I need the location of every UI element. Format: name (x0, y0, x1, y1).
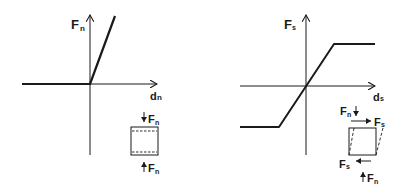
shear-x-axis-label: d s (373, 91, 384, 103)
normal-element-sketch: F n F n (131, 112, 159, 175)
svg-text:s: s (292, 24, 296, 31)
svg-text:F: F (148, 113, 155, 125)
shear-force-panel: F s d s F n F s F s F (240, 15, 385, 185)
svg-text:s: s (380, 95, 384, 102)
svg-text:F: F (339, 158, 346, 170)
normal-x-axis-label: d n (150, 90, 162, 102)
normal-force-curve (22, 16, 115, 84)
diagram-canvas: F n d n F n F n (0, 0, 402, 193)
svg-text:s: s (346, 163, 350, 170)
svg-text:F: F (367, 172, 374, 184)
svg-text:F: F (71, 17, 79, 32)
shear-y-axis-label: F s (284, 17, 296, 32)
svg-text:s: s (381, 121, 385, 128)
svg-text:d: d (373, 91, 380, 103)
svg-text:F: F (284, 17, 292, 32)
svg-text:n: n (155, 168, 159, 175)
svg-text:F: F (340, 105, 347, 117)
normal-y-axis-label: F n (71, 17, 85, 33)
svg-text:n: n (157, 93, 162, 102)
shear-element-sketch: F n F s F s F n (339, 105, 385, 185)
svg-text:F: F (374, 116, 381, 128)
svg-text:n: n (374, 178, 378, 185)
svg-text:n: n (155, 119, 159, 126)
svg-text:n: n (347, 111, 351, 118)
normal-force-panel: F n d n F n F n (22, 15, 162, 175)
svg-text:d: d (150, 90, 157, 102)
svg-text:F: F (148, 162, 155, 174)
svg-text:n: n (80, 24, 85, 33)
